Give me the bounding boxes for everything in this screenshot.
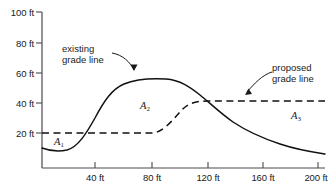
- x-tick-label-40: 40 ft: [70, 172, 120, 183]
- y-tick-label-60: 60 ft: [0, 68, 34, 79]
- x-tick-label-160: 160 ft: [238, 172, 288, 183]
- existing-grade-line-label-line1: existing: [62, 44, 104, 55]
- y-tick-label-20: 20 ft: [0, 128, 34, 139]
- series-proposed-grade-line: [42, 101, 325, 133]
- proposed-grade-arrowhead: [245, 89, 252, 96]
- existing-grade-arrowhead: [131, 65, 138, 72]
- x-axis-ticks: [95, 162, 318, 168]
- y-tick-label-80: 80 ft: [0, 38, 34, 49]
- chart-plot-area: [0, 0, 333, 190]
- area-label-a3-subscript: 3: [297, 115, 301, 123]
- x-tick-label-120: 120 ft: [183, 172, 233, 183]
- y-tick-label-40: 40 ft: [0, 98, 34, 109]
- area-label-a1: A1: [54, 136, 64, 147]
- y-axis-ticks: [36, 12, 42, 133]
- series-existing-grade-line: [42, 79, 325, 154]
- existing-grade-line-annotation: existing grade line: [62, 44, 104, 65]
- proposed-grade-line-label-line2: grade line: [272, 74, 314, 85]
- proposed-grade-line-annotation: proposed grade line: [272, 63, 314, 84]
- existing-grade-leader-line: [112, 53, 134, 70]
- x-tick-label-80: 80 ft: [127, 172, 177, 183]
- x-tick-label-200: 200 ft: [291, 172, 333, 183]
- chart-figure: 100 ft 80 ft 60 ft 40 ft 20 ft 40 ft 80 …: [0, 0, 333, 190]
- area-label-a2: A2: [140, 100, 150, 111]
- existing-grade-line-label-line2: grade line: [62, 55, 104, 66]
- area-label-a1-subscript: 1: [60, 141, 64, 149]
- area-label-a2-subscript: 2: [146, 105, 150, 113]
- proposed-grade-leader-line: [247, 72, 272, 92]
- proposed-grade-line-label-line1: proposed: [272, 63, 314, 74]
- y-tick-label-100: 100 ft: [0, 7, 34, 18]
- area-label-a3: A3: [291, 110, 301, 121]
